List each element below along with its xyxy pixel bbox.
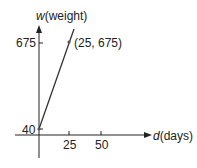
x-tick-label-25: 25 <box>63 138 77 152</box>
data-point-start <box>37 127 40 130</box>
x-axis-arrow-icon <box>144 132 152 138</box>
chart: 40 675 25 50 (25, 675) w(weight) d(days) <box>0 0 197 168</box>
x-axis-label: d(days) <box>153 129 193 143</box>
data-line <box>39 29 74 129</box>
data-point-25-675 <box>67 40 70 43</box>
y-tick-label-40: 40 <box>22 123 36 137</box>
y-axis-arrow-icon <box>36 25 42 33</box>
point-annotation: (25, 675) <box>74 36 122 50</box>
x-tick-label-50: 50 <box>95 138 109 152</box>
y-axis-label: w(weight) <box>36 9 87 23</box>
y-tick-label-675: 675 <box>16 36 36 50</box>
